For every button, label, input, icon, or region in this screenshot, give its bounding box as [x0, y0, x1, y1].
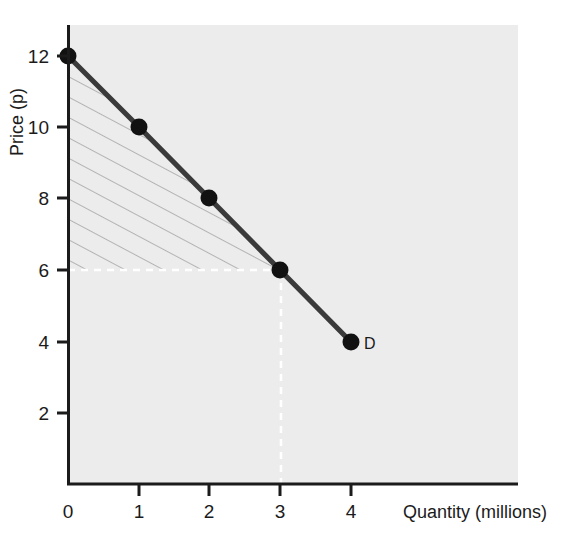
x-tick-label-2: 2 — [204, 501, 215, 522]
demand-curve-chart: D 12 10 8 6 4 2 0 1 2 3 4 Quantity (mill… — [0, 0, 561, 534]
x-tick-label-3: 3 — [275, 501, 286, 522]
data-point-marker — [272, 262, 289, 279]
y-tick-label-2: 2 — [38, 403, 49, 424]
y-tick-label-6: 6 — [38, 260, 49, 281]
y-tick-label-10: 10 — [28, 117, 49, 138]
y-tick-label-4: 4 — [38, 332, 49, 353]
x-axis-title: Quantity (millions) — [403, 502, 547, 522]
x-tick-label-1: 1 — [134, 501, 145, 522]
x-tick-label-0: 0 — [63, 501, 74, 522]
x-tick-label-4: 4 — [346, 501, 357, 522]
y-tick-label-12: 12 — [28, 46, 49, 67]
data-point-marker — [343, 334, 360, 351]
y-tick-label-8: 8 — [38, 188, 49, 209]
data-point-marker — [131, 119, 148, 136]
data-point-marker — [201, 190, 218, 207]
chart-svg: D 12 10 8 6 4 2 0 1 2 3 4 Quantity (mill… — [0, 0, 561, 534]
series-label-d: D — [364, 335, 376, 352]
y-axis-title: Price (p) — [7, 88, 27, 156]
